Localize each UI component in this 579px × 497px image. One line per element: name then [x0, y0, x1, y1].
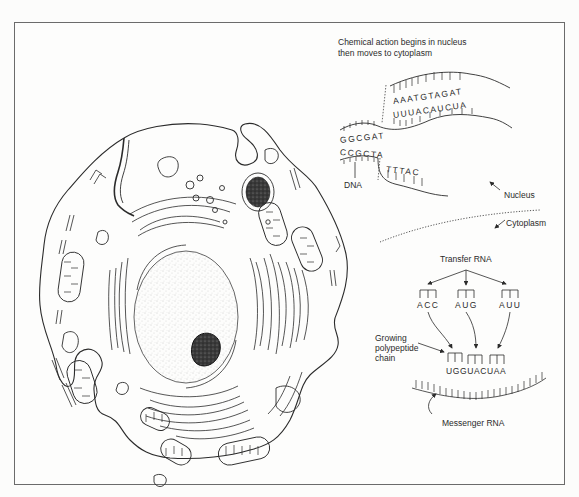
polypeptide-label-line-1: Growing	[375, 333, 418, 343]
messenger-rna-label: Messenger RNA	[442, 418, 504, 428]
polypeptide-label-line-2: polypeptide	[375, 343, 418, 353]
anticodon-aug: AUG	[455, 300, 478, 310]
nucleus-label: Nucleus	[504, 190, 535, 200]
translation-art	[412, 270, 546, 414]
nucleus	[134, 251, 238, 383]
caption-line-2: then moves to cytoplasm	[338, 48, 467, 59]
figure-caption: Chemical action begins in nucleus then m…	[338, 37, 467, 59]
mrna-codons: UGGUACUAA	[446, 366, 506, 376]
transfer-rna-label: Transfer RNA	[440, 254, 492, 264]
anticodon-auu: AUU	[499, 300, 521, 310]
polypeptide-label: Growing polypeptide chain	[375, 333, 418, 363]
caption-line-1: Chemical action begins in nucleus	[338, 37, 467, 48]
cell	[39, 123, 347, 486]
dna-label: DNA	[344, 180, 362, 190]
polypeptide-label-line-3: chain	[375, 353, 418, 363]
anticodon-acc: ACC	[417, 300, 439, 310]
cytoplasm-label: Cytoplasm	[506, 218, 546, 228]
